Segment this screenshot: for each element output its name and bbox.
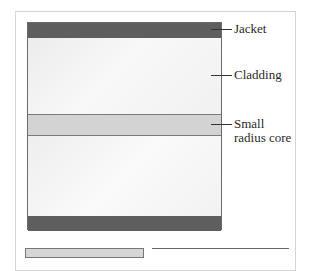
core-leader-line xyxy=(211,124,232,125)
next-figure-box xyxy=(25,248,144,258)
fiber-cross-section xyxy=(27,22,222,230)
core-layer xyxy=(28,114,221,136)
core-label-line1: Small xyxy=(234,117,264,131)
jacket-bottom-layer xyxy=(28,216,221,231)
next-figure-rule xyxy=(152,248,289,249)
cladding-leader-line xyxy=(211,75,232,76)
cladding-label: Cladding xyxy=(234,68,282,82)
cladding-top-layer xyxy=(28,38,221,114)
jacket-label: Jacket xyxy=(234,22,266,36)
cladding-bottom-layer xyxy=(28,136,221,216)
jacket-top-layer xyxy=(28,23,221,38)
jacket-leader-line xyxy=(211,29,232,30)
core-label-line2: radius core xyxy=(234,131,291,145)
